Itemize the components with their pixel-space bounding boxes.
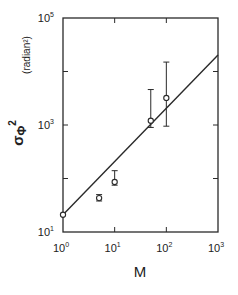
plot-frame	[63, 18, 218, 232]
y-axis-ticks: 101103105	[38, 11, 218, 238]
x-tick-label: 101	[105, 241, 121, 254]
x-tick-label: 100	[53, 241, 69, 254]
y-tick-label: 103	[38, 118, 54, 131]
y-tick-label: 105	[38, 11, 54, 24]
x-tick-label: 102	[156, 241, 172, 254]
data-point	[163, 62, 169, 126]
x-tick-label: 103	[208, 241, 224, 254]
data-point	[148, 90, 154, 128]
data-points	[60, 62, 169, 217]
x-axis-title: M	[134, 263, 147, 280]
y-axis-unit: (radian²)	[21, 36, 32, 74]
chart: 100101102103 101103105 M σΦ2 (radian²)	[0, 0, 238, 295]
data-point	[96, 195, 102, 201]
phi-subscript: Φ	[15, 126, 29, 136]
data-point	[60, 212, 65, 217]
square-superscript: 2	[7, 120, 18, 126]
y-axis-title: σΦ2	[7, 120, 29, 146]
sigma-symbol: σ	[9, 136, 26, 146]
axis-labels: M σΦ2 (radian²)	[7, 36, 146, 280]
data-point	[112, 171, 118, 186]
y-tick-label: 101	[38, 225, 54, 238]
fit-line	[63, 55, 218, 215]
